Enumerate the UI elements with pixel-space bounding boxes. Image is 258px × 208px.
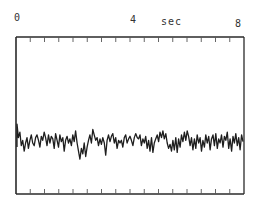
chart-frame	[16, 37, 244, 194]
time-tick-marks	[30, 37, 230, 194]
signal-trace	[17, 124, 243, 159]
chart-plot-area	[0, 0, 258, 208]
